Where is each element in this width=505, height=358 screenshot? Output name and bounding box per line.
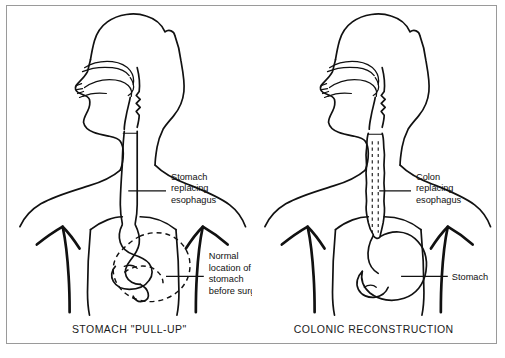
label-line: Stomach	[451, 272, 487, 282]
body-flank-left	[332, 230, 335, 315]
body-flank-left	[88, 230, 91, 315]
label-line: before surgery	[209, 286, 252, 296]
rib-left-outer	[281, 227, 314, 312]
stomach-pull-up-illustration: Stomach replacing esophagus Normal locat…	[7, 6, 252, 343]
colonic-reconstruction-illustration: Colon replacing esophagus Stomach	[252, 6, 497, 343]
caption-colonic-reconstruction: COLONIC RECONSTRUCTION	[252, 323, 497, 335]
nasal-floor-line	[327, 67, 374, 75]
shoulder-left-outline	[264, 170, 364, 227]
body-flank-right	[420, 230, 423, 315]
page-footer-text	[7, 347, 427, 358]
label-line: esophagus	[415, 195, 461, 205]
head-profile-outline	[335, 14, 429, 165]
panel-colonic-reconstruction: Colon replacing esophagus Stomach COLONI…	[252, 6, 497, 343]
label-line: esophagus	[171, 195, 217, 205]
lips-detail	[321, 84, 329, 98]
label-stomach: Stomach	[451, 272, 487, 282]
diaphragm-line	[90, 217, 175, 230]
shoulder-left-outline	[20, 170, 120, 227]
label-line: Stomach	[171, 172, 207, 182]
colon-graft-right-wall	[380, 133, 384, 235]
label-line: replacing	[415, 183, 452, 193]
label-line: stomach	[209, 274, 244, 284]
gastro-colonic-anastomosis	[373, 236, 380, 239]
face-profile-outline	[75, 60, 123, 170]
caption-stomach-pull-up: STOMACH "PULL-UP"	[7, 323, 252, 335]
rib-right-outer	[440, 227, 472, 312]
face-profile-outline	[320, 60, 368, 170]
nasal-floor-line	[83, 67, 130, 75]
gastric-conduit-right-wall	[135, 131, 137, 223]
label-colon-replacing-esophagus: Colon replacing esophagus	[415, 172, 461, 205]
panel-stomach-pull-up: Stomach replacing esophagus Normal locat…	[7, 6, 252, 343]
stomach-lesser-curve	[368, 236, 378, 274]
label-normal-location-of-stomach: Normal location of stomach before surger…	[209, 251, 252, 295]
anterior-pharyngeal-wall	[124, 97, 130, 129]
posterior-pharyngeal-wall	[381, 68, 385, 128]
rib-left-outer	[37, 227, 70, 312]
figure-frame: Stomach replacing esophagus Normal locat…	[6, 5, 497, 344]
posterior-pharyngeal-wall	[136, 68, 140, 128]
label-stomach-replacing-esophagus: Stomach replacing esophagus	[171, 172, 217, 205]
label-line: Colon	[415, 172, 439, 182]
body-flank-right	[176, 230, 179, 315]
label-line: Normal	[209, 251, 239, 261]
duodenal-bulb-detail	[364, 285, 376, 287]
label-line: location of	[209, 263, 252, 273]
label-line: replacing	[171, 183, 208, 193]
lips-detail	[77, 84, 85, 98]
anterior-pharyngeal-wall	[369, 97, 375, 129]
gastric-conduit-left-wall	[120, 131, 124, 223]
